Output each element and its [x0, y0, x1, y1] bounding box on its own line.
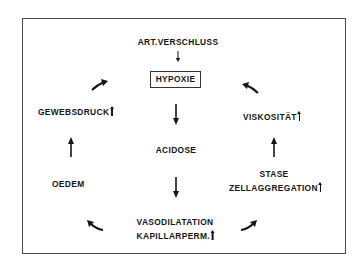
- increase-arrow-icon: [212, 232, 213, 240]
- label-gewebsdruck-group: GEWEBSDRUCK: [38, 108, 113, 116]
- label-viskositaet-group: VISKOSITÄT: [243, 113, 300, 121]
- label-hypoxie: HYPOXIE: [156, 75, 196, 83]
- arrow-down-hypoxie-acidose-icon: [172, 104, 180, 126]
- label-acidose: ACIDOSE: [156, 146, 197, 154]
- increase-arrow-icon: [320, 184, 321, 192]
- label-zellaggregation: ZELLAGGREGATION: [229, 183, 318, 193]
- arrow-up-oedem-gewebsdruck-icon: [67, 137, 75, 158]
- label-viskositaet: VISKOSITÄT: [243, 112, 297, 122]
- increase-arrow-icon: [111, 108, 112, 116]
- label-kapillarperm: KAPILLARPERM.: [137, 231, 210, 241]
- curved-arrow-up-right-icon: [91, 79, 109, 91]
- arrow-down-small-icon: [174, 51, 182, 63]
- label-gewebsdruck: GEWEBSDRUCK: [38, 107, 109, 117]
- curved-arrow-up-left-icon: [86, 220, 104, 232]
- arrow-up-stase-viskositaet-icon: [270, 137, 278, 158]
- increase-arrow-icon: [299, 113, 300, 121]
- label-art-verschluss: ART.VERSCHLUSS: [138, 38, 219, 46]
- label-kapillarperm-group: KAPILLARPERM.: [137, 232, 214, 240]
- curved-arrow-up-left-icon: [241, 82, 259, 94]
- hypoxie-box: HYPOXIE: [150, 71, 201, 88]
- label-zellaggregation-group: ZELLAGGREGATION: [229, 184, 321, 192]
- label-vasodilatation: VASODILATATION: [137, 218, 214, 226]
- label-stase: STASE: [259, 170, 288, 178]
- curved-arrow-up-right-icon: [240, 220, 258, 232]
- arrow-down-acidose-vasodilatation-icon: [172, 177, 180, 199]
- label-oedem: OEDEM: [52, 180, 84, 188]
